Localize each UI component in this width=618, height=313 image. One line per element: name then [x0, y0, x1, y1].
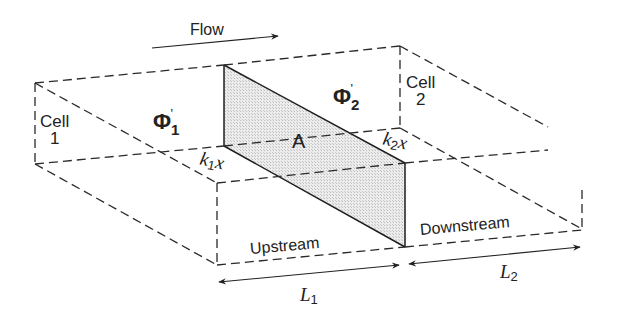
- l-sub: 1: [311, 292, 318, 307]
- phi-sub: 2: [351, 96, 359, 113]
- length-l2-arrow: [409, 247, 580, 264]
- phi-prime: ': [350, 81, 352, 96]
- l-symbol: L: [500, 261, 511, 282]
- l-symbol: L: [300, 284, 311, 305]
- cell1-potential: Φ1': [153, 107, 173, 137]
- cell2-number: 2: [406, 91, 435, 108]
- phi-symbol: Φ: [333, 84, 351, 109]
- cell2-top-front-edge: [405, 150, 548, 163]
- cell2-label-text: Cell: [406, 74, 435, 91]
- length-l2-label: L2: [500, 262, 518, 283]
- cell2-label: Cell 2: [406, 74, 435, 108]
- cell2-top-back-edge: [224, 46, 400, 65]
- phi-prime: ': [170, 106, 172, 121]
- phi-sub: 1: [171, 121, 179, 138]
- l-sub: 2: [511, 269, 518, 284]
- diagram-lines: [0, 0, 618, 313]
- cell1-bottom-back-edge: [35, 146, 224, 164]
- cell1-number: 1: [40, 130, 69, 147]
- cell1-label: Cell 1: [40, 113, 69, 147]
- interface-area-label: A: [292, 131, 305, 151]
- flow-label: Flow: [190, 22, 224, 38]
- length-l1-label: L1: [300, 285, 318, 306]
- cell2-potential: Φ2': [333, 82, 353, 112]
- cell1-bottom-left-edge: [35, 164, 217, 265]
- cell1-top-back-edge: [35, 65, 224, 83]
- cell1-label-text: Cell: [40, 113, 69, 130]
- diagram-canvas: Flow Cell 1 Cell 2 Φ1' Φ2' A k1x k2x Ups…: [0, 0, 618, 313]
- interface-plane-a: [224, 65, 405, 247]
- length-l1-arrow: [219, 265, 399, 282]
- phi-symbol: Φ: [153, 109, 171, 134]
